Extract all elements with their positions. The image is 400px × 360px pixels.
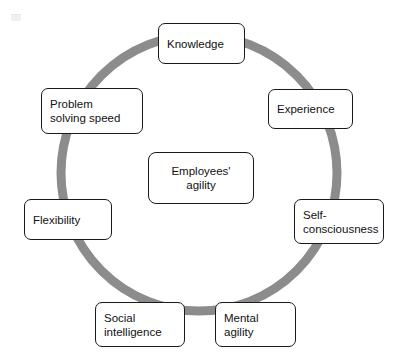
node-knowledge[interactable]: Knowledge	[158, 23, 245, 64]
node-self-consciousness-label: Self- consciousness	[303, 208, 378, 236]
node-problem-solving-speed-label: Problem solving speed	[50, 97, 120, 125]
node-knowledge-label: Knowledge	[167, 37, 224, 51]
employees-agility-cycle-diagram: Knowledge Experience Self- consciousness…	[0, 0, 400, 360]
node-flexibility-label: Flexibility	[33, 213, 80, 227]
node-employees-agility-label: Employees' agility	[171, 164, 230, 192]
node-flexibility[interactable]: Flexibility	[24, 199, 112, 240]
node-experience-label: Experience	[277, 102, 335, 116]
node-mental-agility-label: Mental agility	[224, 311, 259, 339]
node-self-consciousness[interactable]: Self- consciousness	[294, 199, 384, 244]
node-mental-agility[interactable]: Mental agility	[215, 302, 296, 347]
node-social-intelligence[interactable]: Social intelligence	[95, 302, 185, 347]
node-experience[interactable]: Experience	[268, 89, 353, 129]
node-problem-solving-speed[interactable]: Problem solving speed	[41, 88, 143, 134]
node-social-intelligence-label: Social intelligence	[104, 311, 162, 339]
node-employees-agility-center[interactable]: Employees' agility	[148, 152, 254, 204]
